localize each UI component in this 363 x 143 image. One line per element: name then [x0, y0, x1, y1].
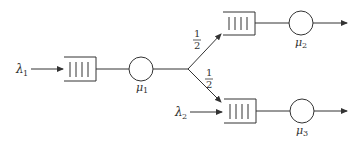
- arrival-label-lambda1: λ 1: [15, 62, 28, 78]
- queue-buffer-2: [223, 12, 255, 35]
- server-label-mu3: μ 3: [296, 124, 308, 138]
- arrival-label-lambda2: λ 2: [174, 105, 187, 121]
- server-mu3: [290, 99, 314, 123]
- svg-text:2: 2: [206, 79, 212, 90]
- svg-text:2: 2: [182, 112, 187, 121]
- routing-probability-bottom: 1 2: [205, 67, 213, 90]
- svg-text:2: 2: [302, 41, 307, 50]
- svg-text:1: 1: [23, 69, 28, 78]
- routing-arrow-to-mu2: [188, 34, 221, 69]
- queueing-network-diagram: λ 1 μ 1 1 2 1 2 μ 2: [0, 0, 363, 143]
- svg-text:3: 3: [303, 129, 308, 138]
- routing-probability-top: 1 2: [193, 28, 201, 51]
- server-mu1: [129, 57, 153, 81]
- queue-buffer-3: [224, 99, 256, 123]
- queue-buffer-1: [64, 57, 96, 81]
- server-label-mu2: μ 2: [295, 36, 307, 50]
- routing-arrow-to-mu3: [188, 69, 221, 102]
- server-mu2: [289, 11, 313, 35]
- svg-text:1: 1: [143, 86, 148, 95]
- svg-text:1: 1: [206, 67, 212, 78]
- svg-text:2: 2: [194, 40, 200, 51]
- server-label-mu1: μ 1: [136, 81, 148, 95]
- svg-text:1: 1: [194, 28, 200, 39]
